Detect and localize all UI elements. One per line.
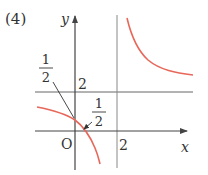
y-intercept-denominator: 2 — [42, 70, 50, 85]
x-intercept-denominator: 2 — [95, 114, 103, 129]
y-intercept-numerator: 1 — [42, 52, 50, 67]
origin-label: O — [61, 136, 72, 152]
hyperbola-graph: (4) y x O 2 2 1 2 1 2 — [0, 0, 208, 175]
horizontal-asymptote-label: 2 — [78, 76, 87, 92]
problem-number: (4) — [5, 10, 26, 28]
y-axis-label: y — [60, 11, 70, 27]
vertical-asymptote-label: 2 — [119, 137, 128, 153]
x-axis-label: x — [181, 139, 189, 155]
y-intercept-leader — [53, 82, 74, 118]
x-intercept-numerator: 1 — [95, 96, 103, 111]
x-intercept-leader — [84, 122, 92, 129]
curve-right-branch — [127, 18, 193, 75]
